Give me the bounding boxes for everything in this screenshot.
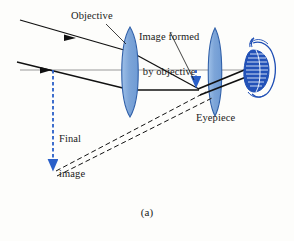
objective-label: Objective <box>71 10 113 22</box>
objective-leader-line <box>106 24 126 44</box>
eyepiece-lens <box>208 28 222 116</box>
image-formed-label-line2: by objective <box>139 66 199 78</box>
incoming-ray-upper <box>20 20 131 52</box>
image-formed-by-objective-label: Image formed by objective <box>139 8 199 100</box>
telescope-ray-diagram-figure: Objective Image formed by objective Eyep… <box>0 0 294 241</box>
eyepiece-label: Eyepiece <box>196 112 235 124</box>
final-image-label-line1: Final <box>59 133 85 145</box>
incoming-ray-lower <box>17 62 131 90</box>
figure-caption: (a) <box>0 207 294 219</box>
objective-lens <box>122 27 139 117</box>
eye-icon <box>244 38 276 97</box>
image-formed-label-line1: Image formed <box>139 31 199 43</box>
final-image-label: Final image <box>59 110 85 202</box>
final-image-label-line2: image <box>59 168 85 180</box>
incoming-ray-lower-arrowhead <box>40 67 52 74</box>
